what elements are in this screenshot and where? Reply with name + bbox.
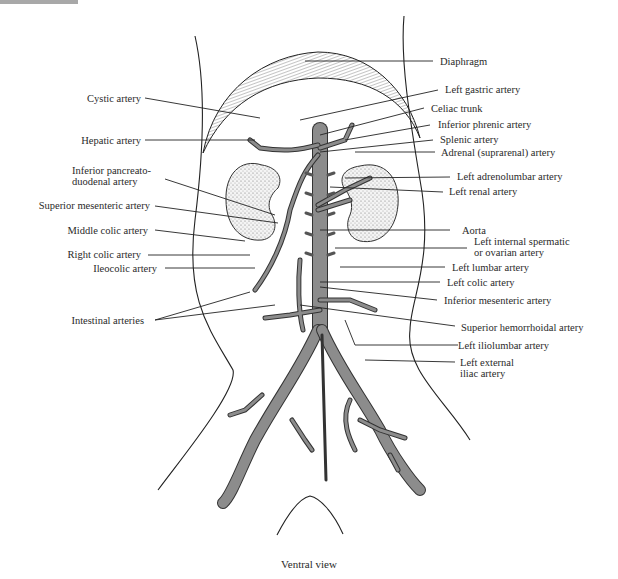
label-right-colic-artery: Right colic artery xyxy=(0,249,141,260)
label-celiac-trunk: Celiac trunk xyxy=(431,103,483,114)
label-left-internal-spermatic-line2: or ovarian artery xyxy=(474,247,544,258)
label-superior-mesenteric-artery: Superior mesenteric artery xyxy=(0,200,150,211)
arterial-anatomy-illustration xyxy=(0,0,618,579)
label-diaphragm: Diaphragm xyxy=(440,56,487,67)
label-superior-hemorrhoidal-artery: Superior hemorrhoidal artery xyxy=(461,322,583,333)
label-inferior-phrenic-artery: Inferior phrenic artery xyxy=(438,119,531,130)
diaphragm-shape xyxy=(203,52,420,153)
label-splenic-artery: Splenic artery xyxy=(440,134,499,145)
label-left-gastric-artery: Left gastric artery xyxy=(445,84,520,95)
label-middle-colic-artery: Middle colic artery xyxy=(0,225,148,236)
figure-caption: Ventral view xyxy=(0,558,618,570)
label-ileocolic-artery: Ileocolic artery xyxy=(0,263,157,274)
label-left-adrenolumbar-artery: Left adrenolumbar artery xyxy=(457,171,563,182)
label-inferior-pancreatoduodenal-line1: Inferior pancreato- xyxy=(72,165,151,176)
label-cystic-artery: Cystic artery xyxy=(0,93,141,104)
label-inferior-mesenteric-artery: Inferior mesenteric artery xyxy=(444,295,551,306)
label-left-renal-artery: Left renal artery xyxy=(449,186,517,197)
label-left-external-iliac-line1: Left external xyxy=(460,357,514,368)
label-left-lumbar-artery: Left lumbar artery xyxy=(452,262,529,273)
label-left-external-iliac-line2: iliac artery xyxy=(460,368,505,379)
label-aorta: Aorta xyxy=(462,225,486,236)
label-adrenal-artery: Adrenal (suprarenal) artery xyxy=(441,147,555,158)
label-left-colic-artery: Left colic artery xyxy=(447,277,515,288)
label-hepatic-artery: Hepatic artery xyxy=(0,135,141,146)
label-intestinal-arteries: Intestinal arteries xyxy=(0,315,144,326)
label-left-internal-spermatic-line1: Left internal spermatic xyxy=(474,236,570,247)
label-left-iliolumbar-artery: Left iliolumbar artery xyxy=(458,340,549,351)
label-inferior-pancreatoduodenal-line2: duodenal artery xyxy=(72,176,138,187)
